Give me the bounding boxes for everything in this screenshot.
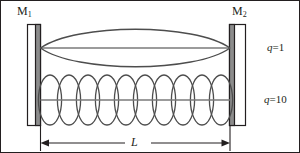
mirror-left-label-subscript: 1 <box>28 10 32 19</box>
mode-q1-upper-envelope <box>41 29 231 48</box>
optical-cavity-diagram: M1 M2 q=1 q=10 L <box>0 0 300 153</box>
mode-q10-order: 10 <box>276 93 287 105</box>
mirror-right-label: M2 <box>232 5 247 19</box>
dimension-arrowhead-right <box>222 140 231 147</box>
mode-q1-order: 1 <box>279 41 285 53</box>
standing-wave-mode-q10 <box>38 75 232 125</box>
mode-q10-label: q=10 <box>264 94 287 105</box>
mode-q1-lower-envelope <box>41 48 231 67</box>
dimension-arrowhead-left <box>41 140 50 147</box>
dimension-length-label: L <box>131 136 138 148</box>
mode-q1-label: q=1 <box>267 42 284 53</box>
mirror-left-label: M1 <box>17 5 32 19</box>
mirror-left-label-text: M <box>17 4 28 18</box>
cavity-drawing-canvas <box>1 1 300 153</box>
mirror-right-label-text: M <box>232 4 243 18</box>
standing-wave-mode-q1 <box>41 29 231 67</box>
mirror-left-m1 <box>28 25 41 126</box>
mirror-right-label-subscript: 2 <box>243 10 247 19</box>
